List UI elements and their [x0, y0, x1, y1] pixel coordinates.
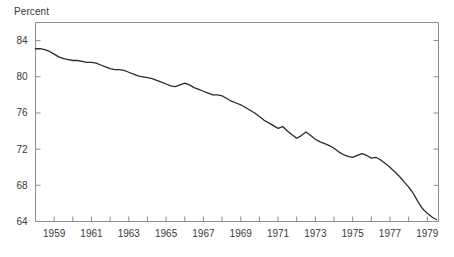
chart-container: Percent 646872768084 1959196119631965196…: [0, 0, 454, 257]
x-tick-label: 1961: [80, 228, 103, 239]
y-tick-label: 68: [16, 180, 28, 191]
data-series-group: [36, 49, 437, 220]
x-tick-label: 1979: [416, 228, 439, 239]
y-tick-label: 84: [16, 35, 28, 46]
y-tick-label: 64: [16, 216, 28, 227]
x-tick-label: 1977: [379, 228, 402, 239]
x-tick-label: 1965: [155, 228, 178, 239]
plot-frame: [36, 23, 439, 222]
y-tick-label: 76: [16, 107, 28, 118]
x-tick-label: 1969: [230, 228, 253, 239]
x-tick-label: 1959: [43, 228, 66, 239]
y-tick-label: 80: [16, 71, 28, 82]
line-chart-plot: 646872768084 195919611963196519671969197…: [0, 0, 454, 257]
x-tick-label: 1963: [118, 228, 141, 239]
y-axis-tick-marks: [36, 41, 439, 222]
x-tick-label: 1975: [342, 228, 365, 239]
x-axis-tick-labels: 1959196119631965196719691971197319751977…: [43, 228, 439, 239]
y-axis-tick-labels: 646872768084: [16, 35, 28, 227]
x-tick-label: 1971: [267, 228, 290, 239]
x-tick-label: 1973: [304, 228, 327, 239]
x-tick-label: 1967: [192, 228, 215, 239]
data-series-line: [36, 49, 437, 220]
x-axis-tick-marks: [54, 217, 427, 222]
y-tick-label: 72: [16, 144, 28, 155]
